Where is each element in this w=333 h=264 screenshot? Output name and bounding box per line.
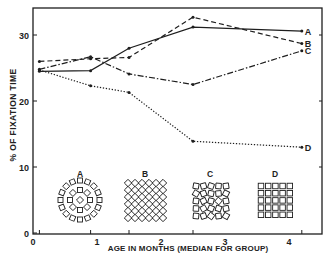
- pattern-square: [287, 205, 293, 211]
- pattern-square: [222, 212, 229, 219]
- pattern-square: [258, 205, 264, 211]
- pattern-square: [84, 179, 91, 186]
- pattern-square: [145, 200, 152, 207]
- y-tick-label: 0: [24, 229, 29, 239]
- pattern-square: [78, 208, 83, 213]
- pattern-square: [192, 190, 200, 198]
- pattern-square: [95, 204, 102, 211]
- pattern-square: [131, 179, 138, 186]
- pattern-a: A: [58, 169, 102, 222]
- data-point: [89, 69, 92, 72]
- data-point: [300, 42, 303, 45]
- pattern-square: [138, 193, 145, 200]
- stimulus-patterns: ABCD: [58, 169, 293, 222]
- pattern-square: [287, 183, 293, 189]
- pattern-square: [152, 214, 159, 221]
- pattern-square: [223, 205, 230, 212]
- series-lines: ABCD: [38, 16, 312, 153]
- pattern-square: [265, 198, 271, 204]
- pattern-square: [200, 197, 207, 204]
- pattern-square: [223, 183, 229, 189]
- series-label-a: A: [305, 27, 312, 37]
- pattern-square: [88, 198, 93, 203]
- series-label-d: D: [305, 143, 312, 153]
- data-point: [128, 72, 131, 75]
- pattern-square: [63, 210, 70, 217]
- series-line-c: [39, 51, 301, 85]
- pattern-square: [152, 200, 159, 207]
- pattern-square: [265, 212, 271, 218]
- pattern-square: [69, 179, 76, 186]
- pattern-square: [222, 190, 229, 197]
- pattern-label: A: [77, 169, 83, 179]
- pattern-square: [138, 207, 145, 214]
- pattern-square: [69, 189, 76, 196]
- data-point: [192, 26, 195, 29]
- pattern-square: [58, 198, 63, 203]
- pattern-square: [193, 198, 199, 204]
- pattern-label: D: [272, 169, 278, 179]
- pattern-square: [258, 190, 264, 196]
- line-chart: 0102030 01234 ABCD ABCD: [0, 0, 333, 264]
- pattern-square: [84, 189, 91, 196]
- pattern-square: [265, 205, 271, 211]
- series-line-b: [39, 17, 301, 61]
- pattern-square: [159, 186, 166, 193]
- pattern-square: [265, 183, 271, 189]
- pattern-square: [124, 193, 131, 200]
- data-point: [300, 49, 303, 52]
- pattern-square: [280, 212, 286, 218]
- pattern-square: [138, 214, 145, 221]
- pattern-square: [258, 183, 264, 189]
- pattern-square: [131, 214, 138, 221]
- data-point: [128, 47, 131, 50]
- pattern-square: [159, 214, 166, 221]
- pattern-square: [95, 189, 102, 196]
- data-point: [192, 16, 195, 19]
- pattern-square: [131, 200, 138, 207]
- pattern-square: [273, 205, 279, 211]
- pattern-square: [152, 193, 159, 200]
- pattern-square: [145, 193, 152, 200]
- pattern-square: [273, 190, 279, 196]
- pattern-square: [200, 213, 207, 220]
- pattern-square: [78, 217, 83, 222]
- pattern-square: [207, 212, 215, 220]
- pattern-square: [208, 198, 215, 205]
- data-point: [89, 55, 92, 58]
- pattern-square: [200, 205, 208, 213]
- pattern-square: [208, 190, 215, 197]
- pattern-square: [76, 196, 83, 203]
- pattern-b: B: [124, 169, 166, 222]
- data-point: [38, 60, 41, 63]
- pattern-square: [152, 186, 159, 193]
- pattern-square: [258, 212, 264, 218]
- pattern-square: [124, 214, 131, 221]
- pattern-square: [193, 183, 199, 189]
- pattern-square: [131, 193, 138, 200]
- data-point: [300, 30, 303, 33]
- pattern-square: [131, 186, 138, 193]
- pattern-square: [59, 189, 66, 196]
- x-axis-title: AGE IN MONTHS (MEDIAN FOR GROUP): [88, 244, 288, 253]
- pattern-square: [280, 205, 286, 211]
- pattern-square: [145, 179, 152, 186]
- pattern-square: [216, 183, 222, 189]
- pattern-d: D: [258, 169, 292, 218]
- pattern-square: [159, 207, 166, 214]
- pattern-square: [200, 190, 207, 197]
- pattern-square: [124, 200, 131, 207]
- pattern-square: [207, 205, 214, 212]
- x-tick-label: 0: [30, 237, 35, 247]
- pattern-square: [273, 212, 279, 218]
- pattern-square: [124, 207, 131, 214]
- y-tick-label: 30: [19, 31, 29, 41]
- pattern-square: [131, 207, 138, 214]
- pattern-square: [215, 213, 221, 219]
- data-point: [300, 146, 303, 149]
- series-label-c: C: [305, 46, 312, 56]
- pattern-square: [69, 215, 76, 222]
- data-point: [38, 68, 41, 71]
- pattern-square: [265, 190, 271, 196]
- pattern-square: [159, 193, 166, 200]
